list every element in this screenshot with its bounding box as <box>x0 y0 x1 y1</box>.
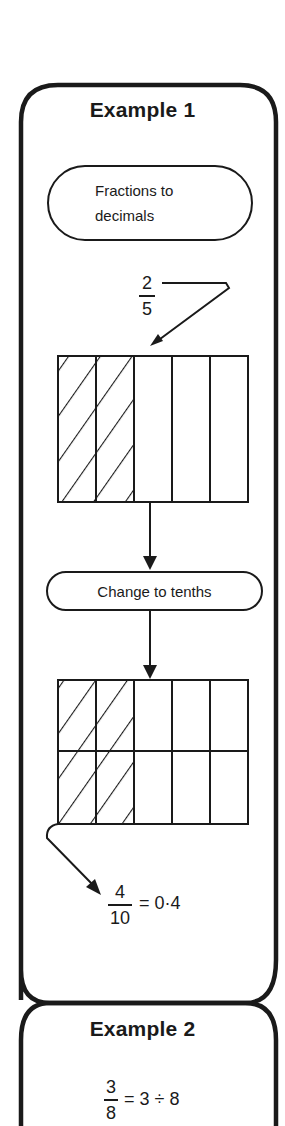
curved-arrow-icon <box>47 824 101 895</box>
fraction-denominator: 10 <box>108 908 132 928</box>
fraction-numerator: 4 <box>108 882 132 902</box>
grid-tenths <box>58 680 248 824</box>
example2-division: = 3 ÷ 8 <box>124 1089 179 1109</box>
step-capsule-label: Change to tenths <box>47 582 262 601</box>
fraction-bar <box>104 1099 118 1101</box>
example2-fraction: 3 8 <box>104 1077 118 1123</box>
fraction-denominator: 8 <box>104 1103 118 1123</box>
fraction-numerator: 2 <box>139 273 155 293</box>
start-capsule-line2: decimals <box>95 206 154 225</box>
start-capsule-line1: Fractions to <box>95 181 173 200</box>
result-decimal: = 0·4 <box>139 893 181 913</box>
input-fraction: 2 5 <box>139 273 155 319</box>
start-capsule <box>48 166 252 240</box>
grid-fifths <box>58 356 248 502</box>
down-arrow-icon <box>143 610 157 679</box>
down-arrow-icon <box>143 502 157 570</box>
fraction-numerator: 3 <box>104 1077 118 1097</box>
fraction-bar <box>108 904 132 906</box>
example1-title: Example 1 <box>0 98 285 122</box>
fraction-denominator: 5 <box>139 299 155 319</box>
fraction-bar <box>139 295 155 297</box>
result-fraction: 4 10 <box>108 882 132 928</box>
example2-title: Example 2 <box>0 1017 285 1041</box>
flowchart-drawing <box>0 0 285 1126</box>
arrow-icon <box>150 283 229 346</box>
